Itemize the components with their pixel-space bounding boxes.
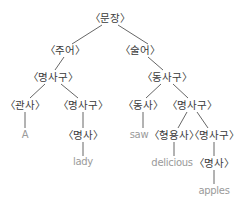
- tree-edge: [148, 57, 163, 70]
- tree-node-label: 〈주어〉: [45, 44, 85, 56]
- tree-edge: [146, 84, 161, 98]
- tree-edge: [55, 57, 64, 70]
- tree-leaf-word: delicious: [151, 157, 192, 169]
- tree-edge: [197, 112, 208, 128]
- tree-node-label: 〈명사구〉: [58, 99, 108, 111]
- tree-node-label: 〈명사구〉: [167, 99, 217, 111]
- tree-node-label: 〈동사구〉: [142, 71, 192, 83]
- tree-node-label: 〈관사〉: [5, 99, 45, 111]
- tree-node-label: 〈명사구〉: [189, 129, 238, 141]
- tree-edge: [178, 112, 187, 128]
- tree-node-label: 〈동사〉: [123, 99, 163, 111]
- tree-node-label: 〈명사구〉: [28, 71, 78, 83]
- tree-node-label: 〈문장〉: [90, 12, 130, 24]
- tree-node-label: 〈술어〉: [120, 44, 160, 56]
- tree-leaf-word: A: [22, 129, 29, 141]
- tree-edge: [173, 84, 188, 98]
- tree-node-label: 〈명사〉: [63, 129, 103, 141]
- tree-leaf-word: saw: [130, 129, 149, 141]
- tree-edge: [118, 25, 148, 44]
- tree-edge: [30, 84, 45, 98]
- tree-leaf-word: apples: [198, 185, 229, 197]
- tree-leaf-word: lady: [73, 156, 93, 168]
- tree-edge: [61, 84, 78, 98]
- tree-edge: [72, 25, 102, 44]
- tree-node-label: 〈명사〉: [194, 157, 234, 169]
